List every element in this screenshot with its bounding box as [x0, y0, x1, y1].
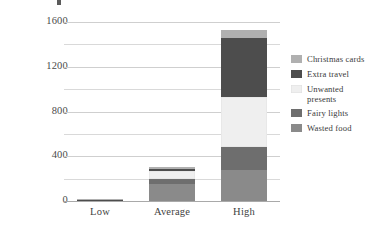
bar-segment	[77, 200, 123, 201]
gridline	[64, 22, 280, 23]
legend-item[interactable]: Wasted food	[291, 123, 374, 134]
bar-segment	[221, 30, 267, 38]
bar-segment	[149, 171, 195, 179]
bar-segment	[149, 179, 195, 184]
legend-item[interactable]: Extra travel	[291, 69, 374, 80]
legend-item[interactable]: Fairy lights	[291, 108, 374, 119]
x-tick-label: Average	[136, 206, 208, 217]
bar-segment	[221, 97, 267, 147]
bar-segment	[221, 170, 267, 201]
legend-swatch	[291, 70, 302, 78]
legend-swatch	[291, 85, 302, 93]
legend-item[interactable]: Unwanted presents	[291, 84, 374, 104]
x-tick-label: High	[208, 206, 280, 217]
stacked-bar-chart: kg CO2e per adult 040080012001600 LowAve…	[0, 0, 374, 234]
x-axis-line	[64, 201, 280, 202]
legend-label: Unwanted presents	[307, 84, 374, 104]
cropped-title-artifact	[57, 0, 61, 5]
legend-label: Christmas cards	[307, 54, 374, 64]
legend-label: Wasted food	[307, 123, 374, 133]
legend: Christmas cardsExtra travelUnwanted pres…	[291, 54, 374, 138]
bar-high	[221, 30, 267, 201]
legend-item[interactable]: Christmas cards	[291, 54, 374, 65]
bar-segment	[221, 38, 267, 97]
legend-label: Fairy lights	[307, 108, 374, 118]
bar-low	[77, 199, 123, 201]
bar-average	[149, 167, 195, 201]
plot-area	[64, 22, 280, 201]
legend-swatch	[291, 124, 302, 132]
x-tick-label: Low	[64, 206, 136, 217]
bar-segment	[149, 169, 195, 171]
x-axis-tick-labels: LowAverageHigh	[64, 206, 280, 226]
legend-label: Extra travel	[307, 69, 374, 79]
legend-swatch	[291, 109, 302, 117]
bar-segment	[149, 167, 195, 168]
bar-segment	[149, 184, 195, 201]
bar-segment	[221, 147, 267, 170]
legend-swatch	[291, 55, 302, 63]
